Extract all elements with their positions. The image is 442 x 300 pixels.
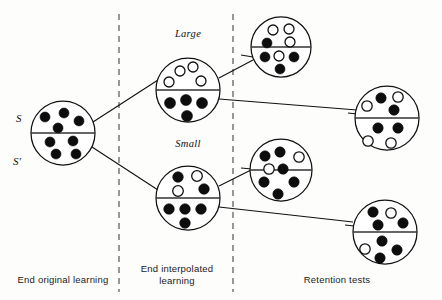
top-retention-stub [241, 55, 253, 57]
circle-retention-large-first-lower-item-filled-0 [260, 52, 270, 62]
circle-interpolated-small-lower-item-filled-2 [196, 204, 207, 215]
large-to-right-retention [219, 99, 357, 110]
circle-retention-small-second-lower-item-filled-0 [377, 236, 387, 246]
circle-interpolated-large-lower-item-filled-2 [197, 98, 208, 109]
phase-label-0: End original learning [18, 274, 109, 285]
circle-interpolated-small-upper-item-open-2 [173, 186, 184, 197]
circle-retention-small-first-upper-item-filled-0 [260, 151, 270, 161]
memory-set-diagram: SS'LargeSmallEnd original learningEnd in… [0, 0, 442, 300]
circle-end-original-learning-upper-item-filled-3 [74, 116, 84, 126]
circle-retention-small-first-lower-item-filled-3 [273, 189, 283, 199]
circle-retention-large-first-upper-item-open-2 [285, 37, 295, 47]
phase-label-1: End interpolated [141, 263, 213, 274]
connector-lines [92, 55, 357, 226]
circle-retention-small-second-lower-item-filled-3 [375, 253, 385, 263]
circle-interpolated-large-upper-item-open-3 [196, 76, 206, 86]
circle-retention-large-first-upper-item-filled-3 [262, 38, 272, 48]
circle-retention-small-second-upper-item-filled-0 [368, 207, 378, 217]
circle-interpolated-large-lower-item-filled-1 [181, 95, 192, 106]
circle-retention-large-second-upper-item-open-2 [362, 101, 372, 111]
circle-end-original-learning-lower-item-filled-0 [45, 137, 55, 147]
circle-end-original-learning-lower-item-filled-3 [71, 149, 81, 159]
orig-to-large [93, 80, 158, 122]
circle-interpolated-large [156, 58, 220, 122]
set-label-0: S [16, 112, 22, 124]
circle-end-original-learning-lower-item-filled-1 [68, 136, 78, 146]
circle-retention-small-first [250, 139, 312, 201]
circle-interpolated-small-lower-item-filled-0 [164, 204, 175, 215]
phase-label-3: Retention tests [304, 274, 370, 285]
large-to-top-retention [219, 60, 253, 78]
circle-end-original-learning-upper-item-filled-1 [59, 108, 69, 118]
circle-retention-large-second-upper-item-filled-0 [376, 93, 386, 103]
circle-interpolated-large-upper-item-open-1 [175, 66, 185, 76]
circle-retention-small-second-upper-item-filled-2 [373, 220, 383, 230]
circle-interpolated-small-lower-item-filled-3 [180, 218, 191, 229]
circle-retention-small-second-lower-item-open-1 [360, 244, 370, 254]
circle-interpolated-large-upper-item-open-0 [164, 77, 174, 87]
circle-end-original-learning-upper-item-filled-2 [53, 123, 63, 133]
circle-retention-large-second-upper-item-filled-3 [389, 105, 399, 115]
circle-interpolated-small [156, 166, 220, 230]
phase-separators [119, 14, 233, 292]
small-to-mid-retention [219, 170, 251, 186]
circle-end-original-learning-upper-item-filled-0 [40, 112, 50, 122]
circle-interpolated-small-upper-item-filled-0 [173, 172, 184, 183]
circle-retention-large-first [251, 17, 311, 77]
stimulus-circles [31, 17, 419, 264]
circle-retention-large-first-upper-item-open-0 [268, 25, 278, 35]
circle-interpolated-small-upper-item-filled-3 [199, 184, 210, 195]
circle-retention-large-second-lower-item-open-3 [386, 138, 396, 148]
diagram-canvas: SS'LargeSmallEnd original learningEnd in… [0, 0, 442, 300]
circle-retention-large-first-lower-item-open-1 [274, 51, 284, 61]
circle-retention-large-second-upper-item-open-1 [393, 92, 403, 102]
circle-end-original-learning [31, 101, 95, 165]
circle-retention-large-first-lower-item-filled-3 [275, 64, 285, 74]
orig-to-small [92, 147, 158, 190]
bottom-retention-stub [345, 225, 354, 226]
circle-retention-large-second-lower-item-open-2 [363, 136, 373, 146]
circle-retention-small-second-upper-item-open-1 [386, 208, 396, 218]
circle-retention-large-second-lower-item-filled-1 [393, 123, 403, 133]
circle-retention-large-second [355, 86, 419, 150]
circle-retention-small-first-lower-item-filled-1 [259, 177, 269, 187]
circle-retention-small-second [353, 200, 417, 264]
circle-interpolated-large-upper-item-open-2 [188, 62, 198, 72]
circle-retention-small-first-upper-item-filled-1 [275, 147, 285, 157]
circle-retention-small-first-lower-item-filled-0 [278, 164, 288, 174]
small-to-bottom-retention [219, 207, 353, 222]
condition-label-1: Small [175, 138, 200, 149]
phase-label-2: learning [159, 275, 194, 286]
set-label-1: S' [13, 155, 22, 167]
circle-end-original-learning-lower-item-filled-2 [51, 149, 61, 159]
circle-retention-small-first-upper-item-open-2 [294, 152, 304, 162]
circle-retention-large-first-lower-item-filled-2 [289, 52, 299, 62]
circle-interpolated-small-lower-item-filled-1 [180, 204, 191, 215]
circle-retention-large-second-lower-item-filled-0 [373, 123, 383, 133]
circle-retention-small-second-upper-item-filled-3 [398, 218, 408, 228]
circle-retention-small-first-upper-item-open-3 [264, 164, 274, 174]
condition-label-0: Large [174, 28, 201, 39]
circle-retention-small-first-lower-item-filled-2 [289, 177, 299, 187]
circle-interpolated-large-lower-item-filled-3 [182, 111, 193, 122]
circle-retention-large-first-upper-item-open-1 [284, 24, 294, 34]
circle-interpolated-small-upper-item-open-1 [192, 171, 203, 182]
circle-interpolated-large-lower-item-filled-0 [165, 98, 176, 109]
circle-retention-small-second-lower-item-filled-2 [392, 245, 402, 255]
